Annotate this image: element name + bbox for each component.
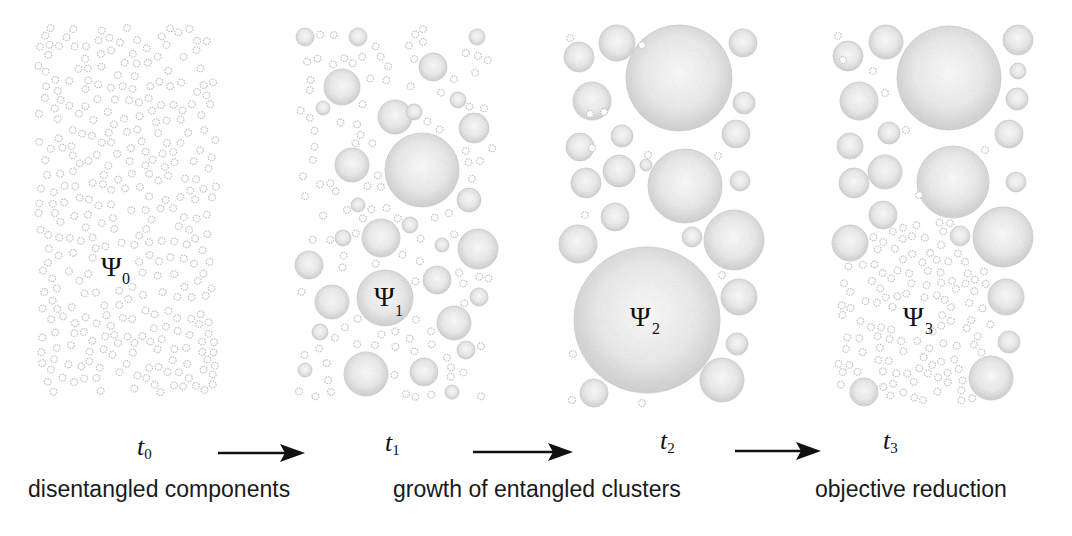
component-dot — [170, 205, 177, 212]
component-dot — [115, 176, 122, 183]
component-dot — [944, 379, 951, 386]
component-dot — [461, 300, 468, 307]
component-dot — [359, 101, 366, 108]
component-dot — [340, 252, 347, 259]
component-dot — [870, 68, 877, 75]
component-dot — [59, 144, 66, 151]
component-dot — [81, 375, 88, 382]
component-dot — [922, 234, 929, 241]
cluster-bubble — [869, 201, 897, 229]
component-dot — [357, 131, 364, 138]
component-dot — [892, 245, 899, 252]
component-dot — [111, 121, 118, 128]
component-dot — [103, 312, 110, 319]
component-dot — [185, 129, 192, 136]
component-dot — [843, 346, 850, 353]
cluster-bubble — [869, 25, 903, 59]
component-dot — [196, 321, 203, 328]
cluster-bubble — [580, 379, 608, 407]
cluster-bubble — [700, 358, 744, 402]
component-dot — [908, 280, 915, 287]
cluster-bubble — [973, 207, 1033, 267]
component-dot — [938, 279, 945, 286]
component-dot — [37, 227, 44, 234]
component-dot — [66, 268, 73, 275]
component-dot — [138, 138, 145, 145]
component-dot — [462, 50, 469, 57]
component-dot — [197, 65, 204, 72]
component-dot — [121, 59, 128, 66]
component-dot — [951, 356, 958, 363]
component-dot — [447, 373, 454, 380]
component-dot — [210, 349, 217, 356]
component-dot — [183, 241, 190, 248]
component-dot — [158, 238, 165, 245]
time-index: 2 — [667, 440, 675, 456]
component-dot — [934, 388, 941, 395]
component-dot — [142, 207, 149, 214]
component-dot — [947, 318, 954, 325]
component-dot — [428, 391, 435, 398]
component-dot — [838, 302, 845, 309]
component-dot — [200, 366, 207, 373]
component-dot — [958, 387, 965, 394]
component-dot — [183, 344, 190, 351]
component-dot — [301, 352, 308, 359]
component-dot — [174, 294, 181, 301]
component-dot — [175, 29, 182, 36]
component-dot — [392, 328, 399, 335]
component-dot — [971, 288, 978, 295]
cluster-bubble — [312, 324, 328, 340]
component-dot — [979, 305, 986, 312]
component-dot — [157, 205, 164, 212]
component-dot — [41, 289, 48, 296]
component-dot — [944, 369, 951, 376]
component-dot — [878, 324, 885, 331]
component-dot — [940, 228, 947, 235]
component-dot — [106, 34, 113, 41]
component-dot — [911, 394, 918, 401]
component-dot — [165, 68, 172, 75]
component-dot — [894, 267, 901, 274]
component-dot — [203, 92, 210, 99]
component-dot — [108, 47, 115, 54]
component-dot — [180, 53, 187, 60]
component-dot — [311, 143, 318, 150]
component-dot — [95, 81, 102, 88]
component-dot — [187, 187, 194, 194]
cluster-bubble — [1003, 25, 1033, 55]
component-dot — [353, 230, 360, 237]
component-dot — [98, 220, 105, 227]
component-dot — [170, 149, 177, 156]
component-dot — [903, 290, 910, 297]
component-dot — [83, 43, 90, 50]
component-dot — [456, 269, 463, 276]
component-dot — [134, 37, 141, 44]
component-dot — [170, 102, 177, 109]
component-dot — [114, 151, 121, 158]
component-dot — [146, 252, 153, 259]
component-dot — [102, 243, 109, 250]
component-dot — [344, 207, 351, 214]
component-dot — [899, 235, 906, 242]
component-dot — [904, 370, 911, 377]
component-dot — [428, 328, 435, 335]
component-dot — [317, 181, 324, 188]
component-dot — [478, 343, 485, 350]
component-dot — [155, 130, 162, 137]
component-dot — [909, 250, 916, 257]
cluster-bubble — [571, 168, 601, 198]
cluster-bubble — [626, 25, 732, 131]
component-dot — [162, 164, 169, 171]
component-dot — [186, 332, 193, 339]
component-dot — [136, 113, 143, 120]
component-dot — [971, 341, 978, 348]
component-dot — [368, 206, 375, 213]
component-dot — [76, 277, 83, 284]
component-dot — [874, 333, 881, 340]
svg-text:Ψ: Ψ — [903, 301, 924, 332]
component-dot — [136, 258, 143, 265]
component-dot — [107, 322, 114, 329]
component-dot — [147, 83, 154, 90]
cluster-bubble — [295, 251, 323, 279]
